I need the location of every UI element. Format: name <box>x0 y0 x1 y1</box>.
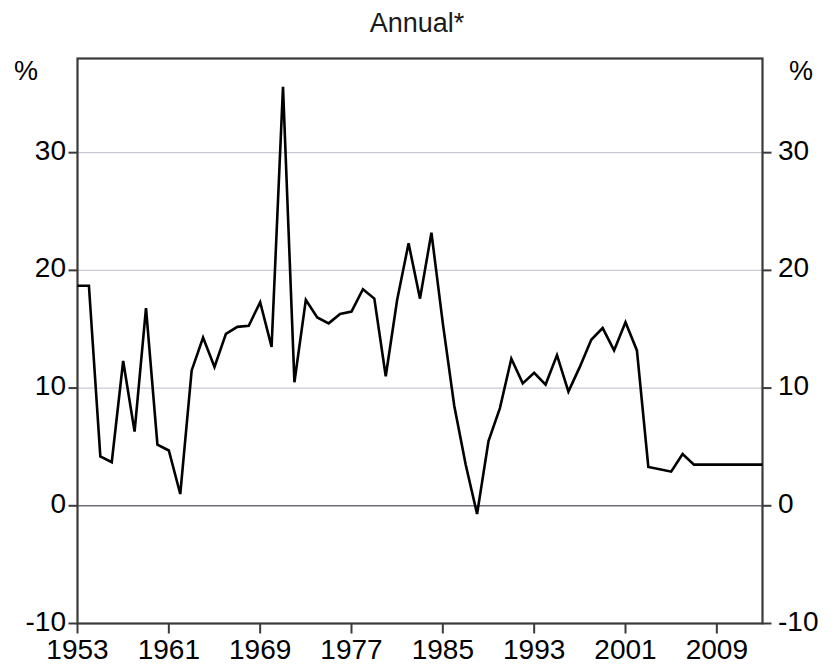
axis-ticks <box>69 153 772 634</box>
y-axis-tick-label: 10 <box>2 370 66 402</box>
gridlines <box>78 153 763 388</box>
y-axis-tick-label: 0 <box>778 488 834 520</box>
y-axis-tick-label: 20 <box>778 252 834 284</box>
plot-frame <box>78 59 763 624</box>
y-axis-tick-label: 20 <box>2 252 66 284</box>
y-axis-tick-label: 30 <box>778 135 834 167</box>
plot-area <box>0 0 834 671</box>
y-axis-tick-label: 10 <box>778 370 834 402</box>
data-series-line <box>78 87 763 514</box>
x-axis-tick-label: 2009 <box>662 634 772 666</box>
chart-container: Annual* % % -100102030 -100102030 195319… <box>0 0 834 671</box>
y-axis-tick-label: -10 <box>778 606 834 638</box>
y-axis-tick-label: 30 <box>2 135 66 167</box>
y-axis-tick-label: 0 <box>2 488 66 520</box>
y-axis-tick-label: -10 <box>2 606 66 638</box>
